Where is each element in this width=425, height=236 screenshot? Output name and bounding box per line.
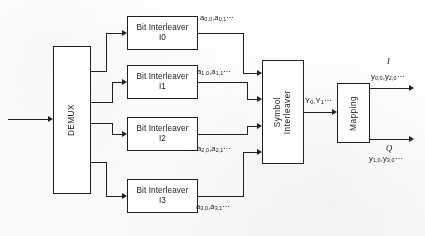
figure-canvas: DEMUX Bit InterleaverI0 Bit InterleaverI… bbox=[0, 0, 425, 236]
bit-interleaver-i1-block: Bit InterleaverI1 bbox=[127, 65, 198, 99]
signal-label-Y: Y0,Y1⋯ bbox=[305, 96, 332, 105]
demux-out-0-stub bbox=[91, 71, 107, 72]
demux-out-0-riser bbox=[106, 33, 107, 72]
signal-label-a1: a1,0,a1,1⋯ bbox=[197, 67, 232, 76]
mapping-i-output-wire bbox=[370, 88, 412, 89]
symbol-interleaver-label: SymbolInterleaver bbox=[273, 90, 292, 134]
demux-out-1-riser bbox=[112, 82, 113, 103]
interleaver-2-output-wire bbox=[198, 134, 248, 135]
signal-label-a3: a3,0,a3,1⋯ bbox=[196, 202, 231, 211]
bit-interleaver-i3-block: Bit InterleaverI3 bbox=[127, 179, 198, 213]
interleaver-3-output-riser bbox=[243, 152, 244, 197]
signal-label-y-q: y1,0,y3,0⋯ bbox=[369, 154, 403, 163]
demux-out-3-dropper bbox=[106, 162, 107, 196]
interleaver-0-output-dropper bbox=[243, 33, 244, 73]
input-wire bbox=[8, 119, 50, 120]
symbol-to-mapping-wire bbox=[304, 112, 335, 113]
mapping-label: Mapping bbox=[349, 96, 359, 131]
interleaver-1-output-wire bbox=[198, 82, 248, 83]
demux-out-1-stub bbox=[91, 102, 113, 103]
bit-interleaver-i3-label: Bit InterleaverI3 bbox=[136, 186, 188, 205]
interleaver-1-output-dropper bbox=[247, 82, 248, 99]
demux-out-3-stub bbox=[91, 162, 107, 163]
demux-label: DEMUX bbox=[67, 104, 77, 136]
bit-interleaver-i2-label: Bit InterleaverI2 bbox=[136, 124, 188, 143]
symbol-interleaver-block: SymbolInterleaver bbox=[262, 60, 304, 164]
bit-interleaver-i1-label: Bit InterleaverI1 bbox=[136, 72, 188, 91]
bit-interleaver-i0-label: Bit InterleaverI0 bbox=[136, 23, 188, 42]
mapping-i-output-arrowhead bbox=[409, 85, 414, 91]
signal-label-a2: a2,0,a2,1⋯ bbox=[197, 144, 232, 153]
signal-label-y-i: y0,0,y2,0⋯ bbox=[371, 72, 405, 81]
interleaver-3-output-wire bbox=[198, 196, 244, 197]
bit-interleaver-i2-block: Bit InterleaverI2 bbox=[127, 117, 198, 151]
mapping-block: Mapping bbox=[337, 83, 370, 143]
demux-out-2-stub bbox=[91, 123, 113, 124]
interleaver-0-output-wire bbox=[198, 33, 244, 34]
mapping-q-output-arrowhead bbox=[409, 136, 414, 142]
branch-label-q: Q bbox=[386, 143, 392, 153]
demux-block: DEMUX bbox=[53, 46, 91, 194]
mapping-q-output-wire bbox=[370, 139, 412, 140]
bit-interleaver-i0-block: Bit InterleaverI0 bbox=[127, 16, 198, 50]
branch-label-i: I bbox=[387, 56, 390, 66]
signal-label-a0: a0,0,a0,1⋯ bbox=[200, 13, 235, 22]
